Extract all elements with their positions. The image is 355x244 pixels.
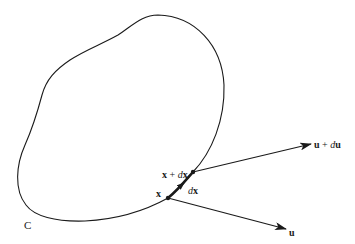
diagram-canvas: C x x + dx dx u u + du xyxy=(0,0,355,244)
curve-label-c: C xyxy=(24,219,31,231)
vector-u xyxy=(168,198,286,229)
diagram-svg: C x x + dx dx u u + du xyxy=(0,0,355,244)
dx-label: dx xyxy=(188,185,198,196)
vector-u-label: u xyxy=(289,227,295,238)
vector-u-plus-du-label: u + du xyxy=(314,139,341,150)
point-x-label: x xyxy=(156,188,161,199)
vector-u-plus-du xyxy=(193,144,311,172)
dx-arrow xyxy=(176,183,184,190)
point-x-plus-dx-label: x + dx xyxy=(162,169,188,180)
